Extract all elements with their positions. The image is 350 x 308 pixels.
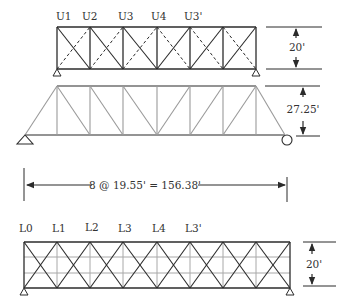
support-triangle-icon bbox=[252, 69, 260, 76]
node-label-u4: U4 bbox=[151, 10, 167, 22]
support-triangle-icon bbox=[286, 288, 294, 295]
node-label-u3: U3 bbox=[118, 10, 134, 22]
top-lateral-bracing-plan: U1 U2 U3 U4 U3' bbox=[53, 10, 322, 76]
top-plan-height-dimension: 20' bbox=[266, 27, 322, 69]
elevation-height-dimension: 27.25' bbox=[265, 86, 320, 136]
node-label-u1: U1 bbox=[56, 10, 72, 22]
support-triangle-icon bbox=[53, 69, 61, 76]
span-dimension-label: 8 @ 19.55' = 156.38' bbox=[89, 179, 201, 191]
node-label-l1: L1 bbox=[52, 222, 66, 234]
top-plan-height-label: 20' bbox=[289, 41, 305, 53]
bottom-lateral-bracing-plan: L0 L1 L2 L3 L4 L3' bbox=[19, 221, 336, 295]
support-triangle-icon bbox=[20, 288, 28, 295]
elevation-web-members bbox=[25, 86, 285, 135]
roller-support-icon bbox=[282, 135, 292, 145]
truss-diagram: U1 U2 U3 U4 U3' bbox=[0, 0, 350, 308]
bottom-plan-height-label: 20' bbox=[306, 258, 322, 270]
bottom-plan-height-dimension: 20' bbox=[303, 242, 336, 286]
node-label-u3-prime: U3' bbox=[184, 10, 202, 22]
node-label-u2: U2 bbox=[82, 10, 98, 22]
node-label-l0: L0 bbox=[19, 222, 33, 234]
elevation-height-label: 27.25' bbox=[287, 103, 320, 115]
node-label-l2: L2 bbox=[85, 221, 99, 233]
top-plan-chords bbox=[57, 27, 256, 69]
node-label-l4: L4 bbox=[152, 222, 166, 234]
pin-support-icon bbox=[17, 135, 33, 144]
elevation-chords bbox=[25, 86, 285, 135]
bottom-plan-stringers bbox=[24, 242, 290, 288]
node-label-l3-prime: L3' bbox=[185, 222, 202, 234]
node-label-l3: L3 bbox=[118, 222, 132, 234]
truss-elevation: 27.25' bbox=[17, 86, 320, 145]
span-dimension: 8 @ 19.55' = 156.38' bbox=[24, 168, 287, 202]
